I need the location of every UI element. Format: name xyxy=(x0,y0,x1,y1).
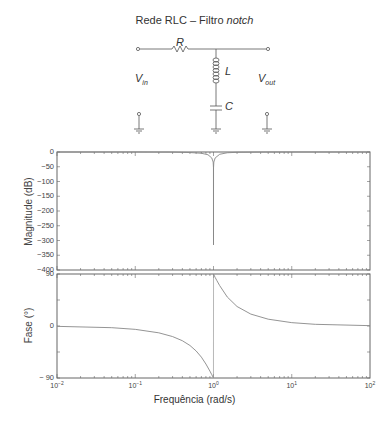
x-tick-label: 102 xyxy=(355,380,385,389)
phase-axes xyxy=(57,274,370,378)
x-axis-label: Frequência (rad/s) xyxy=(0,394,389,405)
y-tick-label: 90 xyxy=(24,269,54,278)
bode-plot xyxy=(0,0,389,424)
x-tick-label: 100 xyxy=(199,380,229,389)
y-tick-label: −100 xyxy=(24,177,54,186)
y-tick-label: 0 xyxy=(24,321,54,330)
y-tick-label: −50 xyxy=(24,162,54,171)
x-tick-label: 10−1 xyxy=(120,380,150,389)
y-tick-label: −300 xyxy=(24,236,54,245)
y-tick-label: −200 xyxy=(24,206,54,215)
y-tick-label: −350 xyxy=(24,250,54,259)
y-tick-label: −150 xyxy=(24,191,54,200)
magnitude-axes xyxy=(57,152,370,270)
y-tick-label: 0 xyxy=(24,147,54,156)
x-tick-label: 10−2 xyxy=(42,380,72,389)
y-tick-label: −250 xyxy=(24,221,54,230)
x-tick-label: 101 xyxy=(277,380,307,389)
